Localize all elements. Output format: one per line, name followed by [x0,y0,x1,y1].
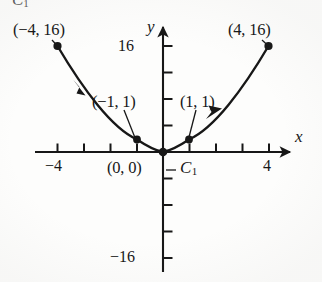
point-minus4-16 [53,42,61,50]
x-tick-label-minus4: −4 [45,158,62,174]
label-point-4-16: (4, 16) [228,22,271,39]
point-4-16 [264,42,272,50]
label-point-0-0: (0, 0) [107,160,142,177]
y-tick-label-16: 16 [118,38,134,54]
label-point-minus4-16: (−4, 16) [13,22,65,39]
clipped-curve-label: C1 [12,0,29,9]
label-point-minus1-1: (−1, 1) [92,94,136,111]
x-tick-label-4: 4 [263,158,271,174]
y-axis-label: y [147,18,155,35]
point-0-0 [159,148,168,157]
parabola-graph [0,0,322,282]
y-tick-label-minus16: −16 [110,249,135,265]
point-minus1-1 [133,136,141,144]
endpoint-connectors [52,40,269,46]
leader-line-right-mid [189,110,197,139]
point-1-1 [185,136,193,144]
label-point-1-1: (1, 1) [180,94,215,111]
curve-label-c1: C1 [180,159,197,177]
figure-screenshot: C1 (−4, 16) (4, 16) (−1, 1) (1, 1) (0, 0… [0,0,322,282]
x-axis-label: x [295,128,303,145]
